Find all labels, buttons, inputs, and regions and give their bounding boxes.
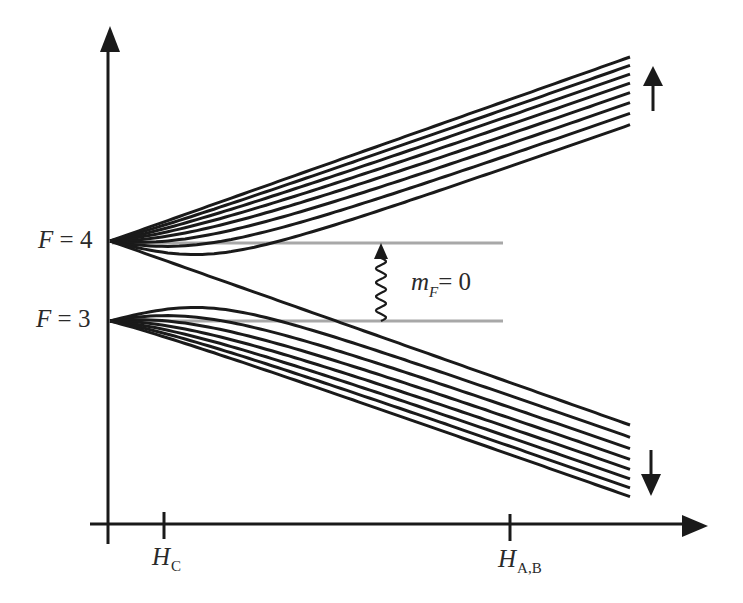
down-arrow-icon [641, 450, 661, 496]
label-hab: HA,B [498, 545, 542, 577]
label-hab-sub: A,B [517, 560, 542, 576]
label-hc-var: H [152, 543, 170, 570]
label-f4: F = 4 [38, 226, 92, 254]
up-arrow-icon [643, 66, 663, 111]
label-hab-var: H [498, 545, 516, 572]
label-mf0-var: m [411, 268, 429, 295]
energy-level-curves [110, 57, 630, 497]
breit-rabi-diagram: F = 4 F = 3 mF= 0 HC HA,B [0, 0, 743, 603]
label-f4-var: F [38, 226, 53, 253]
label-f3-value: = 3 [51, 305, 90, 332]
label-mf0-value: = 0 [438, 268, 471, 295]
label-mf0-sub: F [429, 284, 438, 300]
label-f3: F = 3 [36, 305, 90, 333]
label-hc: HC [152, 543, 181, 575]
label-f3-var: F [36, 305, 51, 332]
label-hc-sub: C [171, 558, 181, 574]
transition-arrow-head-icon [374, 243, 388, 259]
y-axis-arrow-icon [100, 26, 120, 52]
label-f4-value: = 4 [53, 226, 92, 253]
diagram-canvas [0, 0, 743, 603]
x-axis-arrow-icon [682, 515, 708, 537]
wavy-transition-arrow [376, 258, 386, 321]
label-mf0: mF= 0 [411, 268, 471, 301]
